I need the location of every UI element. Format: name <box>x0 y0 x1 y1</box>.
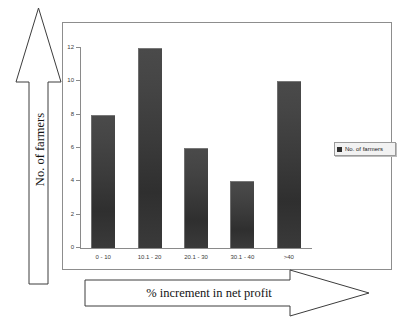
y-axis-tick-label: 8 <box>71 110 74 118</box>
y-axis-tick-label: 2 <box>71 210 74 218</box>
legend-label: No. of farmers <box>345 145 383 153</box>
x-axis-tick-label: >40 <box>266 253 312 261</box>
bar-series <box>80 48 312 248</box>
bar <box>230 181 254 248</box>
y-axis-tick-label: 12 <box>67 43 74 51</box>
chart-canvas: No. of farmers 024681012 0 - 1010.1 - 20… <box>0 0 409 319</box>
bar <box>184 148 208 248</box>
bar <box>138 48 162 248</box>
x-axis-tick-label: 20.1 - 30 <box>173 253 219 261</box>
legend-swatch-icon <box>337 147 342 152</box>
bar <box>91 115 115 248</box>
x-axis-tick-label: 10.1 - 20 <box>126 253 172 261</box>
y-axis-arrow: No. of farmers <box>10 4 68 289</box>
x-axis-tick-label: 30.1 - 40 <box>219 253 265 261</box>
x-axis-tick-label: 0 - 10 <box>80 253 126 261</box>
y-axis-tick-label: 10 <box>67 76 74 84</box>
legend: No. of farmers <box>334 142 396 156</box>
y-axis-tick-label: 4 <box>71 176 74 184</box>
y-axis-tick-label: 6 <box>71 143 74 151</box>
x-axis-arrow-shape <box>84 268 376 318</box>
x-axis-line <box>80 248 312 249</box>
bar <box>277 81 301 248</box>
y-axis-arrow-shape <box>10 4 68 289</box>
x-axis-arrow: % increment in net profit <box>84 268 376 318</box>
y-axis-tick-label: 0 <box>71 243 74 251</box>
